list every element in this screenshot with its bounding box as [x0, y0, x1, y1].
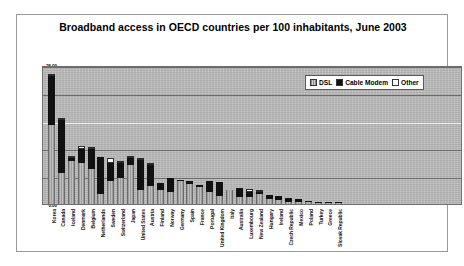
bar-segment-dsl [127, 165, 134, 204]
bar-column [256, 190, 263, 204]
legend-label-cable-modem: Cable Modem [345, 79, 388, 86]
bar-segment-cable [97, 157, 104, 194]
bar-segment-cable [48, 76, 55, 125]
x-axis-label: Australia [235, 207, 242, 263]
bar-segment-dsl [137, 190, 144, 204]
bar-segment-dsl [177, 181, 184, 204]
legend-item-cable-modem: Cable Modem [336, 79, 388, 86]
x-axis-label-text: Switzerland [120, 209, 126, 236]
x-axis-label: Ireland [274, 207, 281, 263]
bar-segment-dsl [325, 203, 332, 204]
legend-swatch-other [392, 79, 399, 86]
x-axis-label-text: Portugal [209, 209, 215, 229]
x-axis-label: Hungary [265, 207, 272, 263]
x-axis-label: Portugal [205, 207, 212, 263]
bar-column [275, 196, 282, 204]
x-axis-label-text: United Kingdom [219, 209, 225, 247]
x-axis-label: Netherlands [96, 207, 103, 263]
bar-segment-cable [117, 163, 124, 179]
bar-segment-cable [137, 160, 144, 189]
x-axis-label-text: Austria [149, 209, 155, 226]
x-axis-label-text: Belgium [90, 209, 96, 228]
x-axis-label: Luxembourg [245, 207, 252, 263]
x-axis-label-text: Finland [159, 209, 165, 226]
x-axis-label-text: France [199, 209, 205, 225]
bar-column [88, 147, 95, 204]
bar-segment-dsl [88, 169, 95, 204]
x-axis-label: Belgium [87, 207, 94, 263]
x-axis-label-text: Poland [308, 209, 314, 225]
bar-column [167, 178, 174, 204]
bar-segment-cable [216, 182, 223, 195]
bar-column [48, 74, 55, 204]
bar-column [117, 161, 124, 204]
x-axis-label-text: Mexico [298, 209, 304, 226]
legend-swatch-cable-modem [336, 79, 343, 86]
x-axis-label: Italy [225, 207, 232, 263]
x-axis-label: Sweden [106, 207, 113, 263]
x-axis-label: Poland [304, 207, 311, 263]
x-axis-label: Slovak Republic [334, 207, 341, 263]
bar-column [177, 180, 184, 204]
x-axis-label: Canada [57, 207, 64, 263]
x-axis-label-text: Greece [327, 209, 333, 226]
bar-segment-dsl [246, 197, 253, 204]
chart-legend: DSL Cable Modem Other [305, 75, 424, 90]
bar-segment-dsl [216, 196, 223, 204]
x-axis-label: United States [136, 207, 143, 263]
bar-segment-dsl [167, 192, 174, 204]
bar-segment-cable [107, 163, 114, 181]
bar-column [157, 183, 164, 204]
bar-column [266, 195, 273, 204]
x-axis-label-text: Italy [229, 209, 235, 219]
bar-segment-dsl [48, 125, 55, 204]
x-axis-label-text: Denmark [80, 209, 86, 230]
bar-column [127, 156, 134, 204]
bar-segment-cable [127, 158, 134, 165]
bar-column [315, 202, 322, 204]
bar-column [58, 118, 65, 204]
x-axis-labels: KoreaCanadaIcelandDenmarkBelgiumNetherla… [42, 207, 462, 263]
bar-column [236, 188, 243, 204]
bar-column [107, 158, 114, 204]
x-axis-label: Czech Republic [284, 207, 291, 263]
legend-label-other: Other [401, 79, 419, 86]
bar-segment-dsl [226, 190, 233, 204]
x-axis-label: Norway [166, 207, 173, 263]
bar-column [325, 202, 332, 204]
bar-segment-dsl [285, 202, 292, 204]
x-axis-label: Denmark [77, 207, 84, 263]
chart-frame: Broadband access in OECD countries per 1… [16, 14, 448, 252]
bar-segment-dsl [97, 194, 104, 204]
bar-column [206, 181, 213, 204]
bar-segment-cable [236, 188, 243, 197]
x-axis-label-text: Iceland [70, 209, 76, 226]
bar-column [305, 201, 312, 204]
bar-column [246, 189, 253, 204]
bar-segment-dsl [107, 181, 114, 204]
x-axis-label-text: United States [140, 209, 146, 240]
bar-segment-dsl [305, 202, 312, 204]
bar-segment-cable [88, 149, 95, 169]
x-axis-label-text: Korea [51, 209, 57, 223]
x-axis-label: New Zealand [255, 207, 262, 263]
legend-item-other: Other [392, 79, 419, 86]
bar-segment-dsl [157, 190, 164, 204]
bar-column [216, 182, 223, 204]
x-axis-label-text: Czech Republic [288, 209, 294, 246]
x-axis-label-text: Slovak Republic [337, 209, 343, 247]
bar-segment-cable [167, 178, 174, 191]
bar-column [285, 198, 292, 204]
x-axis-label-text: Luxembourg [248, 209, 254, 239]
bar-segment-dsl [256, 194, 263, 204]
x-axis-label: Turkey [314, 207, 321, 263]
bar-column [147, 163, 154, 204]
bar-segment-dsl [58, 173, 65, 204]
x-axis-label: Spain [185, 207, 192, 263]
x-axis-label-text: Germany [179, 209, 185, 230]
chart-title: Broadband access in OECD countries per 1… [17, 21, 449, 33]
x-axis-label-text: Australia [238, 209, 244, 230]
bar-column [137, 158, 144, 204]
x-axis-label: Switzerland [116, 207, 123, 263]
x-axis-label-text: Spain [189, 209, 195, 222]
